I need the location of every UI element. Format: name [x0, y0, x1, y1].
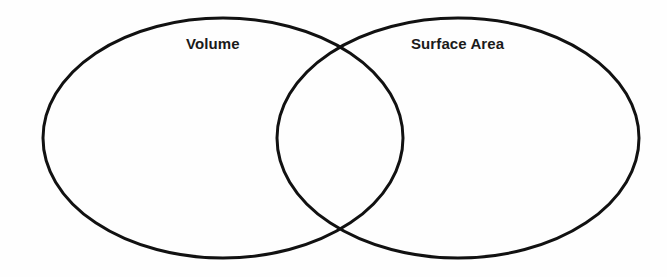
- set-label-surface-area: Surface Area: [411, 36, 504, 51]
- set-ellipse-right: [277, 18, 639, 258]
- set-ellipse-left: [43, 18, 403, 258]
- venn-diagram-canvas: [0, 0, 667, 277]
- set-label-volume: Volume: [186, 36, 240, 51]
- venn-diagram: Volume Surface Area: [0, 0, 667, 277]
